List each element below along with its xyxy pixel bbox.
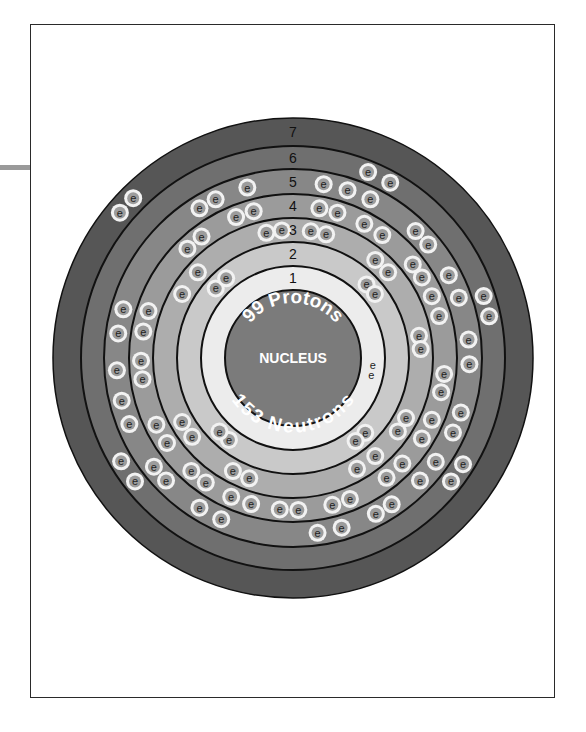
atom-diagram: eeeeeeeeeeeeeeeeeeeeeeeeeeeeeeeeeeeeeeee… (0, 0, 586, 732)
electron-symbol: e (198, 231, 204, 243)
electron: e (190, 499, 208, 517)
electron-symbol: e (216, 426, 222, 438)
electron: e (193, 228, 211, 246)
electron-symbol: e (429, 290, 435, 302)
electron: e (423, 287, 441, 305)
electron-symbol: e (233, 211, 239, 223)
electron: e (413, 430, 431, 448)
electron-symbol: e (399, 458, 405, 470)
electron-symbol: e (118, 455, 124, 467)
electron: e (427, 453, 445, 471)
electron-symbol: e (446, 269, 452, 281)
electron-symbol: e (368, 369, 374, 381)
electron: e (183, 428, 201, 446)
electron-symbol: e (130, 192, 136, 204)
electron: e (310, 199, 328, 217)
electron-symbol: e (263, 227, 269, 239)
electron-symbol: e (316, 202, 322, 214)
electron: e (257, 224, 275, 242)
electron-symbol: e (389, 498, 395, 510)
electron-symbol: e (354, 463, 360, 475)
electron-symbol: e (481, 290, 487, 302)
electron-symbol: e (466, 358, 472, 370)
electron-symbol: e (179, 416, 185, 428)
electron-symbol: e (418, 343, 424, 355)
electron: e (289, 501, 307, 519)
electron: e (182, 462, 200, 480)
shell-number-label: 1 (289, 270, 297, 286)
electron-symbol: e (344, 184, 350, 196)
electron: e (333, 519, 351, 537)
electron-symbol: e (339, 522, 345, 534)
electron: e (368, 369, 374, 381)
electron: e (389, 422, 407, 440)
electron: e (217, 269, 235, 287)
electron-symbol: e (419, 271, 425, 283)
electron-symbol: e (372, 254, 378, 266)
shell-number-label: 6 (289, 150, 297, 166)
electron-symbol: e (373, 508, 379, 520)
electron: e (173, 285, 191, 303)
electron: e (315, 175, 333, 193)
electron-symbol: e (248, 498, 254, 510)
electron-symbol: e (195, 266, 201, 278)
electron-symbol: e (308, 225, 314, 237)
electron: e (367, 505, 385, 523)
electron: e (227, 208, 245, 226)
electron: e (139, 302, 157, 320)
electron-symbol: e (145, 305, 151, 317)
electron-symbol: e (450, 427, 456, 439)
electron: e (366, 447, 384, 465)
electron-symbol: e (126, 418, 132, 430)
electron: e (132, 352, 150, 370)
electron-symbol: e (379, 229, 385, 241)
shell-number-label: 4 (289, 198, 297, 214)
electron: e (378, 469, 396, 487)
electron-symbol: e (295, 504, 301, 516)
electron-symbol: e (460, 458, 466, 470)
electron: e (212, 510, 230, 528)
electron-symbol: e (353, 435, 359, 447)
electron-symbol: e (448, 475, 454, 487)
electron: e (189, 263, 207, 281)
electron: e (442, 472, 460, 490)
electron: e (224, 462, 242, 480)
electron: e (423, 411, 441, 429)
electron: e (242, 495, 260, 513)
electron-symbol: e (244, 182, 250, 194)
electron-symbol: e (251, 205, 257, 217)
electron-symbol: e (456, 292, 462, 304)
electron-symbol: e (151, 461, 157, 473)
electron-symbol: e (203, 477, 209, 489)
electron: e (419, 236, 437, 254)
electron-symbol: e (138, 355, 144, 367)
nucleus: 99 Protons NUCLEUS 153 Neutrons (225, 286, 361, 437)
electron: e (366, 285, 384, 303)
electron: e (238, 179, 256, 197)
electron-symbol: e (403, 412, 409, 424)
nucleus-label: NUCLEUS (259, 350, 327, 366)
electron: e (133, 370, 151, 388)
electron: e (381, 174, 399, 192)
electron: e (361, 190, 379, 208)
electron: e (113, 392, 131, 410)
electron: e (173, 413, 191, 431)
electron-symbol: e (114, 364, 120, 376)
electron: e (145, 458, 163, 476)
electron-symbol: e (417, 475, 423, 487)
electron: e (454, 455, 472, 473)
electron-symbol: e (188, 465, 194, 477)
electron-symbol: e (139, 373, 145, 385)
electron: e (452, 404, 470, 422)
electron: e (197, 474, 215, 492)
electron-symbol: e (119, 395, 125, 407)
electron-symbol: e (120, 303, 126, 315)
electron: e (348, 460, 366, 478)
electron-symbol: e (361, 218, 367, 230)
electron: e (109, 324, 127, 342)
electron: e (355, 215, 373, 233)
electron-symbol: e (315, 527, 321, 539)
electron-symbol: e (179, 288, 185, 300)
electron: e (460, 355, 478, 373)
electron: e (440, 266, 458, 284)
